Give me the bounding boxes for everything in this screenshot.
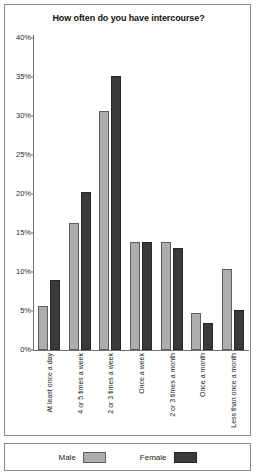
y-axis-tick-mark	[31, 311, 34, 312]
y-axis-tick-label: 40%	[16, 34, 31, 42]
bar-female	[173, 248, 183, 350]
bar-group	[191, 38, 213, 350]
category-label-text: Less than once a month	[229, 353, 236, 428]
y-axis-tick-label: 0%	[20, 346, 31, 354]
bar-female	[50, 280, 60, 350]
legend-swatch-male	[83, 452, 106, 463]
bar-group	[99, 38, 121, 350]
bar-group	[130, 38, 152, 350]
bar-female	[203, 323, 213, 350]
chart-frame: How often do you have intercourse? 0%5%1…	[4, 4, 251, 436]
bar-male	[69, 223, 79, 350]
chart-screenshot: How often do you have intercourse? 0%5%1…	[0, 0, 256, 475]
category-label-text: 2 or 3 times a week	[107, 353, 114, 414]
y-axis-tick-label: 35%	[16, 73, 31, 81]
legend-frame: MaleFemale	[4, 443, 251, 471]
bar-male	[130, 242, 140, 350]
category-label-text: Once a month	[199, 353, 206, 397]
x-axis-category-labels: At least once a day4 or 5 times a week2 …	[34, 353, 248, 439]
y-axis-tick-label: 5%	[20, 307, 31, 315]
x-axis-category-label: Once a month	[191, 353, 213, 439]
chart-legend: MaleFemale	[5, 444, 250, 470]
bar-male	[38, 306, 48, 350]
y-axis-tick-label: 30%	[16, 112, 31, 120]
y-axis-tick-label: 20%	[16, 190, 31, 198]
y-axis-tick-mark	[31, 233, 34, 234]
y-axis-tick-mark	[31, 194, 34, 195]
x-axis-category-label: 4 or 5 times a week	[69, 353, 91, 439]
bar-female	[111, 76, 121, 350]
y-axis-tick-mark	[31, 77, 34, 78]
legend-swatch-female	[174, 452, 197, 463]
legend-item-female[interactable]: Female	[140, 452, 197, 463]
bar-male	[222, 269, 232, 350]
x-axis-category-label: At least once a day	[38, 353, 60, 439]
plot-area: 0%5%10%15%20%25%30%35%40%	[34, 38, 248, 350]
y-axis-tick-mark	[31, 116, 34, 117]
bar-group	[38, 38, 60, 350]
bar-male	[99, 111, 109, 350]
y-axis-tick-mark	[31, 272, 34, 273]
chart-title: How often do you have intercourse?	[5, 13, 252, 23]
legend-label: Female	[140, 453, 167, 462]
category-label-text: At least once a day	[46, 353, 53, 413]
y-axis-tick-mark	[31, 155, 34, 156]
y-axis-tick-label: 15%	[16, 229, 31, 237]
bar-female	[81, 192, 91, 350]
bar-group	[161, 38, 183, 350]
x-axis-category-label: Once a week	[130, 353, 152, 439]
legend-label: Male	[58, 453, 75, 462]
y-axis-tick-label: 25%	[16, 151, 31, 159]
x-axis-category-label: Less than once a month	[222, 353, 244, 439]
bar-female	[142, 242, 152, 350]
y-axis-tick-label: 10%	[16, 268, 31, 276]
x-axis-category-label: 2 or 3 times a week	[99, 353, 121, 439]
y-axis-tick-mark	[31, 350, 34, 351]
bar-group	[69, 38, 91, 350]
bar-male	[161, 242, 171, 350]
y-axis-tick-mark	[31, 38, 34, 39]
category-label-text: 2 or 3 times a month	[168, 353, 175, 417]
category-label-text: Once a week	[138, 353, 145, 394]
x-axis-category-label: 2 or 3 times a month	[161, 353, 183, 439]
bar-male	[191, 313, 201, 350]
legend-item-male[interactable]: Male	[58, 452, 105, 463]
category-label-text: 4 or 5 times a week	[76, 353, 83, 414]
x-axis-line	[33, 350, 249, 351]
bar-group	[222, 38, 244, 350]
bar-female	[234, 310, 244, 350]
